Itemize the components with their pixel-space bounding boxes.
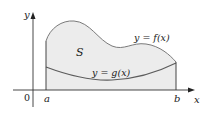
region-label: S xyxy=(76,46,84,59)
bound-a-label: a xyxy=(44,93,50,104)
x-axis-label: x xyxy=(194,94,200,105)
bound-b-label: b xyxy=(174,93,180,104)
origin-label: 0 xyxy=(24,92,30,103)
upper-curve-label: y = f(x) xyxy=(133,32,170,43)
area-between-curves-diagram: y x 0 a b S y = f(x) y = g(x) xyxy=(0,0,209,114)
y-axis-label: y xyxy=(23,9,30,20)
x-axis-arrow-icon xyxy=(188,88,195,93)
y-axis-arrow-icon xyxy=(31,12,36,19)
lower-curve-label: y = g(x) xyxy=(91,67,131,78)
